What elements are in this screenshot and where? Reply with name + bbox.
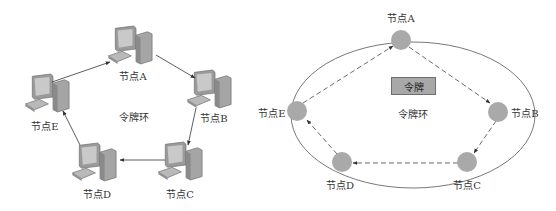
left-node-b-label: 节点B <box>200 110 227 125</box>
right-node-b-circle <box>488 102 508 122</box>
left-node-a-label: 节点A <box>119 68 146 83</box>
left-node-a-computer-icon <box>108 26 152 64</box>
left-node-c-label: 节点C <box>166 186 194 201</box>
right-node-a-circle <box>391 30 411 50</box>
left-node-d-computer-icon <box>72 143 116 181</box>
left-node-b-computer-icon <box>187 70 231 108</box>
left-node-e-label: 节点E <box>31 118 58 133</box>
right-node-b-label: 节点B <box>511 105 538 120</box>
right-node-d-label: 节点D <box>326 177 354 192</box>
right-node-e-label: 节点E <box>258 105 285 120</box>
right-node-d-circle <box>332 152 352 172</box>
right-node-e-circle <box>287 101 307 121</box>
right-node-a-label: 节点A <box>387 10 414 25</box>
right-node-c-label: 节点C <box>453 177 481 192</box>
left-node-e-computer-icon <box>25 74 69 112</box>
left-center-label: 令牌环 <box>119 109 149 124</box>
left-node-c-computer-icon <box>158 142 202 180</box>
token-path-dashed-arrows <box>303 46 496 163</box>
right-center-label: 令牌环 <box>398 106 428 121</box>
token-box: 令牌 <box>391 77 436 95</box>
token-ring-figure: 节点A 节点B 节点C 节点D 节点E 令牌环 令牌 令牌环 节点A 节点B 节… <box>0 0 556 211</box>
right-node-c-circle <box>457 152 477 172</box>
token-label: 令牌 <box>404 79 424 94</box>
left-node-d-label: 节点D <box>83 186 111 201</box>
